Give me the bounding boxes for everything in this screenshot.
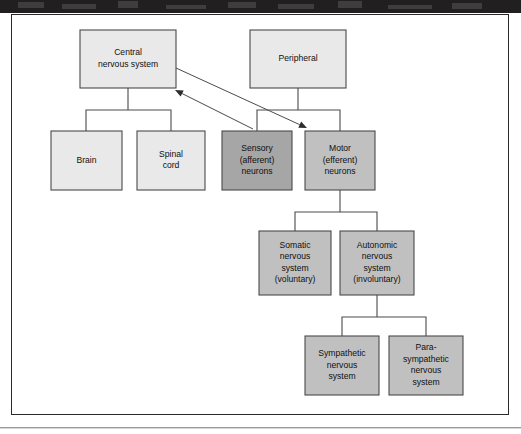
- node-motor-efferent-neurons[interactable]: Motor(efferent)neurons: [305, 131, 375, 190]
- nervous-system-diagram: Centralnervous systemPeripheralBrainSpin…: [0, 0, 521, 434]
- connector-layer: [86, 88, 426, 336]
- node-layer: Centralnervous systemPeripheralBrainSpin…: [51, 30, 463, 395]
- node-sympathetic-nervous-system[interactable]: Sympatheticnervoussystem: [305, 336, 379, 395]
- node-peripheral-label: Peripheral: [278, 53, 317, 63]
- node-brain[interactable]: Brain: [51, 131, 122, 190]
- node-sensory-afferent-neurons[interactable]: Sensory(afferent)neurons: [222, 131, 292, 190]
- connector-autonomic-to-sympathetic-and-parasympathetic: [342, 295, 426, 336]
- node-brain-label: Brain: [76, 155, 96, 165]
- figure-page: Centralnervous systemPeripheralBrainSpin…: [0, 0, 521, 434]
- connector-motor-to-somatic-and-autonomic: [295, 190, 377, 231]
- connector-cns-to-brain-and-spinal-cord: [86, 88, 171, 131]
- page-bottom-rule: [0, 427, 521, 429]
- node-peripheral[interactable]: Peripheral: [250, 30, 346, 88]
- node-spinal-cord[interactable]: Spinalcord: [137, 131, 205, 190]
- node-sensory-afferent-neurons-label: Sensory(afferent)neurons: [240, 143, 275, 176]
- arrow-sensory-neurons-to-cns: [175, 90, 253, 129]
- node-somatic-nervous-system[interactable]: Somaticnervoussystem(voluntary): [259, 231, 331, 295]
- node-parasympathetic-nervous-system[interactable]: Para-sympatheticnervoussystem: [389, 336, 463, 395]
- node-autonomic-nervous-system[interactable]: Autonomicnervoussystem(involuntary): [340, 231, 414, 295]
- node-central-nervous-system[interactable]: Centralnervous system: [80, 30, 176, 88]
